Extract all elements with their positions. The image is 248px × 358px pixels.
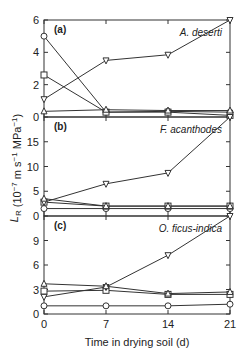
marker-circle bbox=[227, 301, 233, 307]
y-tick-label: 2 bbox=[33, 79, 39, 91]
y-tick-label: 3 bbox=[33, 284, 39, 296]
x-tick-label: 14 bbox=[162, 318, 174, 330]
species-label: F. acanthodes bbox=[160, 124, 222, 135]
y-tick-label: 9 bbox=[33, 235, 39, 247]
marker-triangle-down bbox=[165, 253, 171, 259]
panel-label: (b) bbox=[54, 121, 67, 132]
series-line-square bbox=[44, 202, 230, 206]
series-line-circle bbox=[44, 36, 230, 112]
x-axis-label: Time in drying soil (d) bbox=[85, 336, 190, 348]
series-line-triangle-up bbox=[44, 199, 230, 206]
marker-triangle-up bbox=[41, 195, 47, 201]
panel-b: 051015(b)F. acanthodes bbox=[27, 115, 233, 223]
marker-triangle-down bbox=[41, 294, 47, 300]
marker-circle bbox=[165, 303, 171, 309]
y-tick-label: 5 bbox=[33, 185, 39, 197]
chart: 0246(a)A. deserti051015(b)F. acanthodes0… bbox=[0, 0, 248, 358]
series-line-square bbox=[44, 75, 230, 115]
series-line-circle bbox=[44, 304, 230, 306]
marker-triangle-down bbox=[103, 58, 109, 64]
series-line-triangle-up bbox=[44, 110, 230, 112]
y-tick-label: 15 bbox=[27, 136, 39, 148]
y-tick-label: 4 bbox=[33, 46, 39, 58]
x-tick-label: 7 bbox=[103, 318, 109, 330]
y-tick-label: 0 bbox=[33, 111, 39, 123]
marker-square bbox=[41, 72, 47, 78]
panel-label: (a) bbox=[54, 24, 66, 35]
marker-circle bbox=[103, 303, 109, 309]
marker-triangle-down bbox=[41, 97, 47, 103]
panel-label: (c) bbox=[54, 220, 66, 231]
marker-square bbox=[41, 288, 47, 294]
marker-circle bbox=[41, 33, 47, 39]
marker-triangle-up bbox=[41, 280, 47, 286]
x-tick-label: 21 bbox=[224, 318, 236, 330]
y-tick-label: 0 bbox=[33, 210, 39, 222]
species-label: O. ficus-indica bbox=[159, 223, 223, 234]
y-axis-label: LR (10−7 m s−1 MPa−1) bbox=[8, 114, 23, 222]
panel-c: 0369(c)O. ficus-indica bbox=[33, 214, 233, 321]
y-tick-label: 0 bbox=[33, 308, 39, 320]
y-tick-label: 6 bbox=[33, 259, 39, 271]
y-tick-label: 6 bbox=[33, 14, 39, 26]
y-tick-label: 10 bbox=[27, 161, 39, 173]
marker-circle bbox=[41, 303, 47, 309]
panel-a: 0246(a)A. deserti bbox=[33, 14, 233, 123]
x-tick-label: 0 bbox=[41, 318, 47, 330]
